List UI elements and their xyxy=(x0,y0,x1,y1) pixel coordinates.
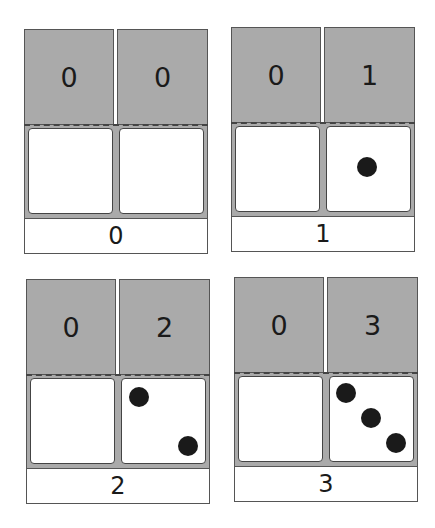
ones-digit: 3 xyxy=(327,277,418,373)
counter-area xyxy=(231,123,415,216)
ones-counter-box xyxy=(326,126,411,212)
ones-counter-box xyxy=(121,378,206,464)
place-value-panel-2: 0 2 2 xyxy=(26,279,210,504)
tens-digit: 0 xyxy=(234,277,324,373)
total-value: 0 xyxy=(24,218,208,254)
place-value-panel-0: 0 0 0 xyxy=(24,29,208,254)
total-value: 3 xyxy=(234,466,418,502)
tens-digit: 0 xyxy=(24,29,114,125)
ones-digit: 2 xyxy=(119,279,210,375)
ones-counter-box xyxy=(329,376,414,462)
counter-dot-icon xyxy=(178,436,198,456)
counter-dot-icon xyxy=(361,408,381,428)
tens-counter-box xyxy=(28,128,113,214)
ones-digit: 0 xyxy=(117,29,208,125)
total-value: 1 xyxy=(231,216,415,252)
counter-area xyxy=(24,125,208,218)
counter-dot-icon xyxy=(129,387,149,407)
ones-digit: 1 xyxy=(324,27,415,123)
divider-line xyxy=(24,124,208,126)
place-value-panel-1: 0 1 1 xyxy=(231,27,415,252)
divider-line xyxy=(234,372,418,374)
divider-line xyxy=(26,374,210,376)
tens-counter-box xyxy=(235,126,320,212)
counter-area xyxy=(26,375,210,468)
ones-counter-box xyxy=(119,128,204,214)
counter-dot-icon xyxy=(386,433,406,453)
counter-area xyxy=(234,373,418,466)
total-value: 2 xyxy=(26,468,210,504)
tens-counter-box xyxy=(30,378,115,464)
counter-dot-icon xyxy=(336,383,356,403)
tens-digit: 0 xyxy=(231,27,321,123)
tens-digit: 0 xyxy=(26,279,116,375)
tens-counter-box xyxy=(238,376,323,462)
counter-dot-icon xyxy=(357,157,377,177)
place-value-panel-3: 0 3 3 xyxy=(234,277,418,502)
divider-line xyxy=(231,122,415,124)
